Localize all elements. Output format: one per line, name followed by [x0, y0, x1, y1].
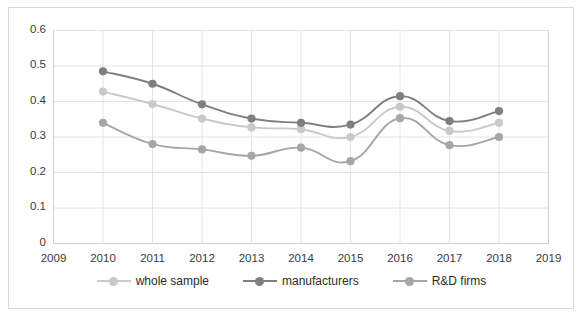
data-point: [495, 119, 503, 127]
data-point: [148, 80, 156, 88]
legend-marker-icon: [393, 275, 427, 287]
y-axis-tick-label: 0.5: [12, 58, 46, 70]
legend-marker-icon: [97, 275, 131, 287]
y-axis-tick-label: 0.3: [12, 129, 46, 141]
y-axis-tick-label: 0.4: [12, 94, 46, 106]
data-point: [99, 67, 107, 75]
y-axis-tick-label: 0.1: [12, 200, 46, 212]
data-point: [396, 114, 404, 122]
chart-legend: whole samplemanufacturersR&D firms: [0, 274, 583, 288]
data-point: [198, 100, 206, 108]
data-point: [99, 119, 107, 127]
x-axis-tick-label: 2015: [326, 252, 376, 264]
legend-marker-icon: [243, 275, 277, 287]
y-axis-tick-label: 0: [12, 236, 46, 248]
x-axis-tick-label: 2017: [425, 252, 475, 264]
x-axis-tick-label: 2011: [128, 252, 178, 264]
data-point: [297, 144, 305, 152]
data-point: [346, 133, 354, 141]
data-point: [247, 123, 255, 131]
data-point: [495, 107, 503, 115]
data-point: [445, 117, 453, 125]
x-axis-tick-label: 2013: [227, 252, 277, 264]
legend-item: R&D firms: [393, 274, 487, 288]
data-point: [346, 157, 354, 165]
data-point: [495, 133, 503, 141]
data-point: [247, 114, 255, 122]
legend-item-label: whole sample: [136, 274, 209, 288]
data-point: [99, 87, 107, 95]
legend-item-label: R&D firms: [432, 274, 487, 288]
data-point: [445, 127, 453, 135]
data-point: [297, 119, 305, 127]
plot-area: [0, 0, 583, 317]
data-point: [198, 114, 206, 122]
x-axis-tick-label: 2018: [474, 252, 524, 264]
gridlines-group: [54, 31, 549, 244]
y-axis-tick-label: 0.6: [12, 23, 46, 35]
x-axis-tick-label: 2012: [177, 252, 227, 264]
data-point: [247, 152, 255, 160]
data-point: [396, 103, 404, 111]
data-point: [346, 120, 354, 128]
data-point: [148, 100, 156, 108]
x-axis-tick-label: 2009: [29, 252, 79, 264]
legend-item: whole sample: [97, 274, 209, 288]
line-chart: 00.10.20.30.40.50.6 20092010201120122013…: [0, 0, 583, 317]
x-axis-tick-label: 2016: [375, 252, 425, 264]
data-point: [396, 92, 404, 100]
x-axis-tick-label: 2019: [524, 252, 574, 264]
data-point: [445, 141, 453, 149]
legend-item: manufacturers: [243, 274, 359, 288]
data-point: [198, 145, 206, 153]
data-point: [148, 140, 156, 148]
x-axis-tick-label: 2014: [276, 252, 326, 264]
legend-item-label: manufacturers: [282, 274, 359, 288]
x-axis-tick-label: 2010: [78, 252, 128, 264]
y-axis-tick-label: 0.2: [12, 165, 46, 177]
